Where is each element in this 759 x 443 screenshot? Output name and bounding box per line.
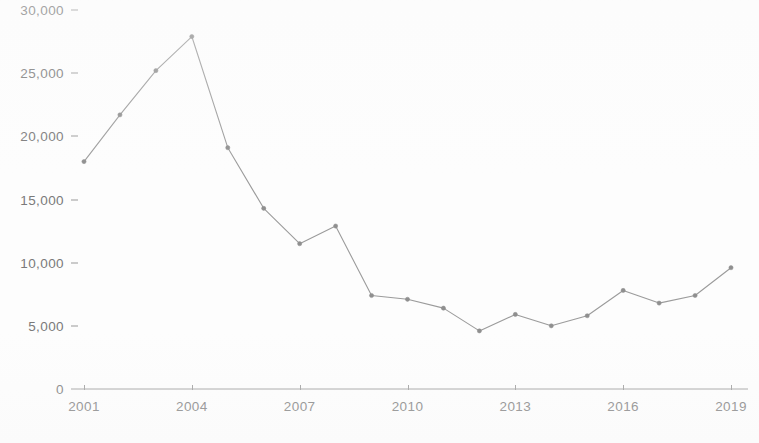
- data-point-marker: [585, 314, 589, 318]
- data-point-marker: [262, 206, 266, 210]
- data-point-marker: [513, 312, 517, 316]
- data-point-marker: [82, 160, 86, 164]
- data-point-marker: [118, 113, 122, 117]
- plot-area: [0, 0, 759, 443]
- data-point-marker: [190, 34, 194, 38]
- data-point-marker: [405, 297, 409, 301]
- data-point-marker: [334, 224, 338, 228]
- data-point-marker: [298, 242, 302, 246]
- data-series-line: [84, 37, 731, 331]
- data-point-marker: [657, 301, 661, 305]
- data-point-marker: [693, 293, 697, 297]
- data-point-marker: [369, 293, 373, 297]
- data-point-marker: [729, 266, 733, 270]
- data-point-marker: [549, 324, 553, 328]
- data-point-marker: [621, 288, 625, 292]
- data-point-marker: [441, 306, 445, 310]
- line-chart: 05,00010,00015,00020,00025,00030,000 200…: [0, 0, 759, 443]
- data-point-marker: [477, 329, 481, 333]
- data-point-markers: [82, 34, 733, 333]
- data-point-marker: [154, 69, 158, 73]
- data-point-marker: [226, 146, 230, 150]
